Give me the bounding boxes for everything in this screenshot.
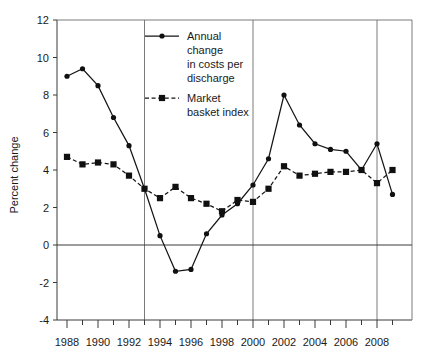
y-tick-label: -4 xyxy=(39,314,49,326)
data-point-circle xyxy=(204,231,209,236)
y-axis-title: Percent change xyxy=(8,136,20,213)
data-point-circle xyxy=(374,141,379,146)
data-point-circle xyxy=(188,267,193,272)
y-tick-label: 4 xyxy=(43,164,49,176)
x-tick-label: 2008 xyxy=(365,336,389,348)
data-point-square xyxy=(110,161,116,167)
y-tick-label: -2 xyxy=(39,277,49,289)
x-tick-label: 2000 xyxy=(241,336,265,348)
data-point-square xyxy=(327,169,333,175)
data-point-circle xyxy=(297,122,302,127)
x-tick-label: 1992 xyxy=(117,336,141,348)
data-point-square xyxy=(296,173,302,179)
legend-label-market-basket-line-1: Market xyxy=(187,92,221,104)
y-axis-title-label: Percent change xyxy=(8,136,20,213)
x-tick-label: 1990 xyxy=(86,336,110,348)
data-point-square xyxy=(126,173,132,179)
data-point-square xyxy=(203,201,209,207)
x-tick-label: 2002 xyxy=(272,336,296,348)
y-tick-label: 0 xyxy=(43,239,49,251)
y-tick-label: 6 xyxy=(43,127,49,139)
data-point-square xyxy=(343,169,349,175)
legend-label-annual-change-line-2: change xyxy=(187,44,223,56)
data-point-square xyxy=(234,197,240,203)
data-point-circle xyxy=(390,192,395,197)
data-point-circle xyxy=(80,66,85,71)
data-point-square xyxy=(250,199,256,205)
x-tick-label: 1996 xyxy=(179,336,203,348)
x-axis-tick-labels: 1988199019921994199619982000200220042006… xyxy=(55,336,389,348)
data-point-square xyxy=(389,167,395,173)
x-tick-label: 2004 xyxy=(303,336,327,348)
x-tick-label: 1998 xyxy=(210,336,234,348)
data-point-circle xyxy=(328,147,333,152)
data-point-circle xyxy=(111,115,116,120)
data-point-square xyxy=(358,167,364,173)
chart-container: -4-2024681012 19881990199219941996199820… xyxy=(0,0,429,361)
y-tick-label: 12 xyxy=(37,14,49,26)
data-point-circle xyxy=(250,182,255,187)
data-point-square xyxy=(374,180,380,186)
data-point-circle xyxy=(157,233,162,238)
y-tick-label: 10 xyxy=(37,52,49,64)
x-tick-label: 2006 xyxy=(334,336,358,348)
data-point-square xyxy=(157,195,163,201)
data-point-square xyxy=(141,186,147,192)
x-tick-label: 1988 xyxy=(55,336,79,348)
y-tick-label: 8 xyxy=(43,89,49,101)
data-point-square xyxy=(79,161,85,167)
data-point-square xyxy=(265,186,271,192)
legend-label-annual-change-line-1: Annual xyxy=(187,30,221,42)
legend-label-annual-change-line-4: discharge xyxy=(187,72,235,84)
data-point-square xyxy=(188,195,194,201)
data-point-square xyxy=(219,208,225,214)
data-point-square xyxy=(64,154,70,160)
data-point-circle xyxy=(64,74,69,79)
data-point-circle xyxy=(343,149,348,154)
legend-marker-square-icon xyxy=(159,95,165,101)
data-point-circle xyxy=(312,141,317,146)
y-tick-label: 2 xyxy=(43,202,49,214)
line-chart: -4-2024681012 19881990199219941996199820… xyxy=(0,0,429,361)
data-point-circle xyxy=(281,92,286,97)
legend-label-market-basket-line-2: basket index xyxy=(187,106,249,118)
x-tick-label: 1994 xyxy=(148,336,172,348)
data-point-square xyxy=(312,171,318,177)
data-point-square xyxy=(281,163,287,169)
data-point-circle xyxy=(95,83,100,88)
data-point-circle xyxy=(266,156,271,161)
legend-label-annual-change-line-3: in costs per xyxy=(187,58,244,70)
legend-marker-circle-icon xyxy=(159,33,164,38)
data-point-circle xyxy=(173,269,178,274)
data-point-square xyxy=(95,159,101,165)
data-point-circle xyxy=(126,143,131,148)
data-point-square xyxy=(172,184,178,190)
